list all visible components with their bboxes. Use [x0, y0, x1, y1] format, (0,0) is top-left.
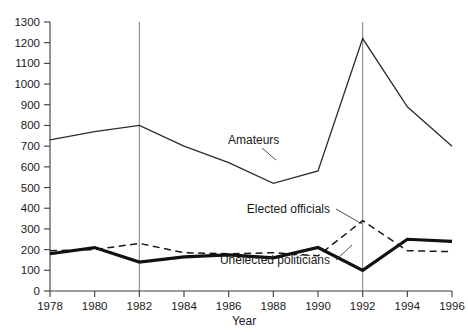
y-axis-tick-label-800: 800: [21, 119, 40, 131]
y-axis-tick-label-600: 600: [21, 161, 40, 173]
y-axis-tick-label-100: 100: [21, 264, 40, 276]
x-axis-tick-label-1978: 1978: [37, 300, 63, 312]
y-axis-tick-label-200: 200: [21, 244, 40, 256]
x-axis-tick-label-1990: 1990: [305, 300, 331, 312]
series-label-elected-officials: Elected officials: [247, 202, 330, 216]
y-axis-tick-label-300: 300: [21, 223, 40, 235]
line-chart: 0100200300400500600700800900100011001200…: [0, 0, 468, 332]
x-axis-tick-label-1992: 1992: [350, 300, 376, 312]
x-axis-tick-label-1988: 1988: [261, 300, 287, 312]
x-axis-tick-label-1994: 1994: [395, 300, 421, 312]
series-label-amateurs: Amateurs: [228, 133, 279, 147]
y-axis-tick-label-400: 400: [21, 202, 40, 214]
x-axis-title: Year: [232, 314, 256, 328]
y-axis-tick-labels: 0100200300400500600700800900100011001200…: [14, 16, 40, 297]
y-axis-tick-label-700: 700: [21, 140, 40, 152]
y-axis-tick-label-1300: 1300: [14, 16, 40, 28]
leader-line-elected-officials: [336, 209, 362, 224]
leader-line-amateurs: [262, 148, 276, 160]
y-axis-tick-label-1000: 1000: [14, 78, 40, 90]
y-axis-tick-marks: [44, 22, 50, 291]
y-axis-tick-label-1100: 1100: [15, 57, 40, 69]
chart-canvas: 0100200300400500600700800900100011001200…: [0, 0, 468, 332]
x-axis-tick-label-1986: 1986: [216, 300, 242, 312]
x-axis-tick-labels: 1978198019821984198619881990199219941996: [37, 300, 465, 312]
y-axis-tick-label-500: 500: [21, 182, 40, 194]
x-axis-tick-label-1980: 1980: [82, 300, 108, 312]
series-label-unelected-politicians: Unelected politicians: [220, 253, 330, 267]
x-axis-tick-label-1984: 1984: [171, 300, 197, 312]
x-axis-tick-marks: [50, 291, 452, 297]
x-axis-tick-label-1982: 1982: [127, 300, 153, 312]
y-axis-tick-label-900: 900: [21, 99, 40, 111]
y-axis-tick-label-1200: 1200: [14, 37, 40, 49]
y-axis-tick-label-0: 0: [34, 285, 40, 297]
reference-lines: [139, 22, 362, 291]
x-axis-tick-label-1996: 1996: [439, 300, 465, 312]
leader-line-unelected-politicians: [336, 245, 352, 260]
series-line-amateurs: [50, 39, 452, 184]
